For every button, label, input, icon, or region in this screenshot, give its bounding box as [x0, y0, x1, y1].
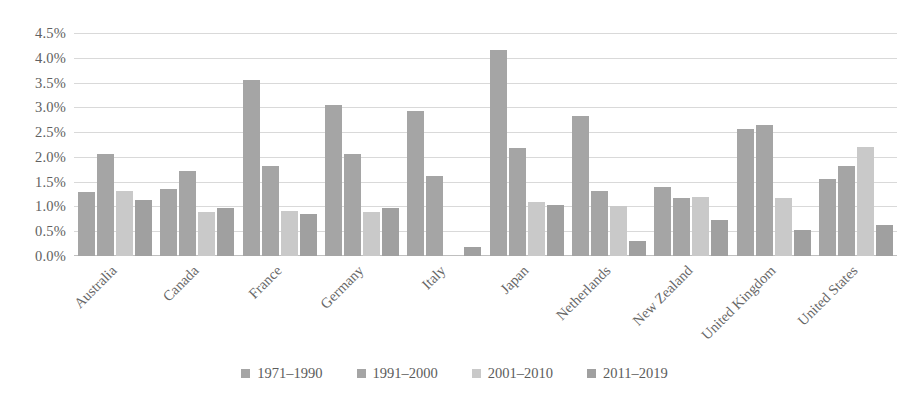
bar-slot [363, 33, 380, 256]
bar-slot [509, 33, 526, 256]
x-axis-cell: New Zealand [650, 257, 732, 357]
bar-slot [528, 33, 545, 256]
bar-slot [179, 33, 196, 256]
x-axis-cell: United Kingdom [732, 257, 814, 357]
bar-slot [426, 33, 443, 256]
x-axis-cell: Canada [156, 257, 238, 357]
bar-slot [281, 33, 298, 256]
legend-item[interactable]: 2011–2019 [587, 366, 668, 381]
bar-slot [116, 33, 133, 256]
x-axis-cell: Japan [485, 257, 567, 357]
y-axis-tick-label: 1.0% [35, 199, 66, 214]
y-axis-tick-label: 0.0% [35, 249, 66, 264]
bar-group [403, 33, 485, 256]
bar[interactable] [344, 154, 361, 256]
bar[interactable] [97, 154, 114, 256]
bar-slot [382, 33, 399, 256]
y-axis-tick-label: 4.5% [35, 26, 66, 41]
bar-slot [344, 33, 361, 256]
legend: 1971–19901991–20002001–20102011–2019 [0, 366, 909, 381]
bar[interactable] [591, 191, 608, 256]
bar[interactable] [756, 125, 773, 256]
bar-groups [74, 33, 897, 256]
y-axis-tick-label: 3.5% [35, 75, 66, 90]
bar-slot [243, 33, 260, 256]
bar-slot [838, 33, 855, 256]
bar[interactable] [737, 129, 754, 256]
x-axis-tick-label-text: France [246, 263, 284, 301]
legend-swatch-icon [587, 369, 596, 378]
bar-slot [464, 33, 481, 256]
bar-group [74, 33, 156, 256]
y-axis-tick-label: 2.5% [35, 125, 66, 140]
bar-slot [673, 33, 690, 256]
bar-slot [775, 33, 792, 256]
x-axis-cell: France [239, 257, 321, 357]
bar-slot [857, 33, 874, 256]
bar-slot [160, 33, 177, 256]
plot-area [74, 33, 897, 256]
x-axis-tick-label-text: Germany [318, 263, 366, 311]
y-axis: 4.5%4.0%3.5%3.0%2.5%2.0%1.5%1.0%0.5%0.0% [0, 0, 72, 414]
bar[interactable] [464, 247, 481, 256]
bar[interactable] [857, 147, 874, 256]
bar-slot [262, 33, 279, 256]
y-axis-tick-label: 3.0% [35, 100, 66, 115]
bar-chart: 4.5%4.0%3.5%3.0%2.5%2.0%1.5%1.0%0.5%0.0%… [0, 0, 909, 414]
legend-label: 1991–2000 [373, 366, 438, 381]
bar-slot [692, 33, 709, 256]
bar-slot [445, 33, 462, 256]
bar-slot [78, 33, 95, 256]
y-axis-tick-label: 1.5% [35, 174, 66, 189]
legend-label: 1971–1990 [257, 366, 322, 381]
x-axis-cell: Australia [74, 257, 156, 357]
bar[interactable] [572, 116, 589, 256]
bar-slot [547, 33, 564, 256]
x-axis-cell: United States [815, 257, 897, 357]
bar-slot [217, 33, 234, 256]
bar[interactable] [426, 176, 443, 256]
bar[interactable] [160, 189, 177, 256]
bar-slot [407, 33, 424, 256]
bar-slot [572, 33, 589, 256]
y-axis-tick-label: 4.0% [35, 51, 66, 66]
bar-slot [135, 33, 152, 256]
bar-slot [610, 33, 627, 256]
bar[interactable] [509, 148, 526, 256]
bar-group [321, 33, 403, 256]
bar-slot [325, 33, 342, 256]
bar-slot [591, 33, 608, 256]
x-axis-tick-label-text: Canada [161, 263, 202, 304]
legend-item[interactable]: 1991–2000 [357, 366, 438, 381]
x-axis: AustraliaCanadaFranceGermanyItalyJapanNe… [74, 257, 897, 357]
x-axis-cell: Germany [321, 257, 403, 357]
bar-group [485, 33, 567, 256]
legend-item[interactable]: 1971–1990 [241, 366, 322, 381]
y-axis-tick-label: 2.0% [35, 150, 66, 165]
bar-group [239, 33, 321, 256]
x-axis-cell: Italy [403, 257, 485, 357]
legend-swatch-icon [357, 369, 366, 378]
x-axis-tick-label-text: Italy [420, 263, 449, 292]
bar-slot [490, 33, 507, 256]
bar-group [156, 33, 238, 256]
bar-slot [198, 33, 215, 256]
bar[interactable] [325, 105, 342, 256]
bar[interactable] [243, 80, 260, 256]
bar[interactable] [78, 192, 95, 256]
bar[interactable] [407, 111, 424, 256]
x-axis-tick-label-text: Australia [72, 263, 120, 311]
bar[interactable] [179, 171, 196, 256]
legend-label: 2001–2010 [488, 366, 553, 381]
legend-item[interactable]: 2001–2010 [472, 366, 553, 381]
y-axis-tick-label: 0.5% [35, 224, 66, 239]
bar[interactable] [673, 198, 690, 256]
bar-slot [97, 33, 114, 256]
bar[interactable] [490, 50, 507, 256]
bar[interactable] [262, 166, 279, 256]
x-axis-tick-label-text: Japan [497, 263, 531, 297]
legend-swatch-icon [472, 369, 481, 378]
bar-group [568, 33, 650, 256]
legend-swatch-icon [241, 369, 250, 378]
bar-slot [300, 33, 317, 256]
